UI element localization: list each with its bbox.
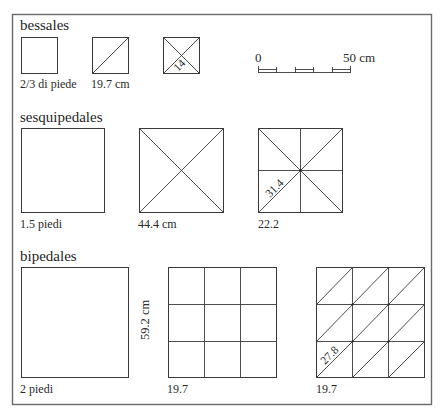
section-title-sesquipedales: sesquipedales xyxy=(20,109,103,125)
tile-sesquipedales-plain xyxy=(22,129,105,213)
section-title-bipedales: bipedales xyxy=(20,248,77,264)
tile-label-bessales-2: 19.7 cm xyxy=(91,77,130,91)
section-sesquipedales: sesquipedales 1.5 piedi 44.4 cm 31.4 22.… xyxy=(20,109,343,231)
tile-bipedales-grid-diagonals xyxy=(317,268,425,378)
tile-bipedales-grid xyxy=(169,268,277,378)
tile-label-sesquipedales-1: 1.5 piedi xyxy=(20,217,63,231)
tile-label-bipedales-1: 2 piedi xyxy=(20,382,54,396)
section-bessales: bessales 2/3 di piede 19.7 cm 14 0 50 cm xyxy=(20,17,375,91)
section-title-bessales: bessales xyxy=(20,17,69,33)
brick-formats-diagram: bessales 2/3 di piede 19.7 cm 14 0 50 cm xyxy=(0,0,440,417)
scale-bar-end-label: 50 cm xyxy=(343,50,375,65)
tile-label-sesquipedales-2: 44.4 cm xyxy=(138,217,177,231)
tile-label-bipedales-2: 19.7 xyxy=(167,382,188,396)
scale-bar: 0 50 cm xyxy=(255,50,375,73)
tile-bipedales-plain xyxy=(22,268,129,378)
tile-bessales-plain xyxy=(22,38,58,74)
section-bipedales: bipedales 2 piedi 59.2 cm 19.7 xyxy=(20,248,425,396)
tile-label-bipedales-3: 19.7 xyxy=(316,382,337,396)
tile-label-bessales-1: 2/3 di piede xyxy=(20,77,77,91)
tile-sesquipedales-two-diagonals xyxy=(140,129,224,213)
tile-sesquipedales-eight-triangles xyxy=(259,129,343,213)
scale-bar-start-label: 0 xyxy=(255,50,262,65)
side-dimension-bipedales: 59.2 cm xyxy=(138,299,152,340)
diagram-frame xyxy=(13,15,432,405)
tile-bessales-one-diagonal xyxy=(93,38,129,74)
tile-inner-label-bipedales-3: 27.8 xyxy=(318,344,341,367)
tile-label-sesquipedales-3: 22.2 xyxy=(258,217,279,231)
tile-inner-label-sesquipedales-3: 31.4 xyxy=(263,177,286,200)
